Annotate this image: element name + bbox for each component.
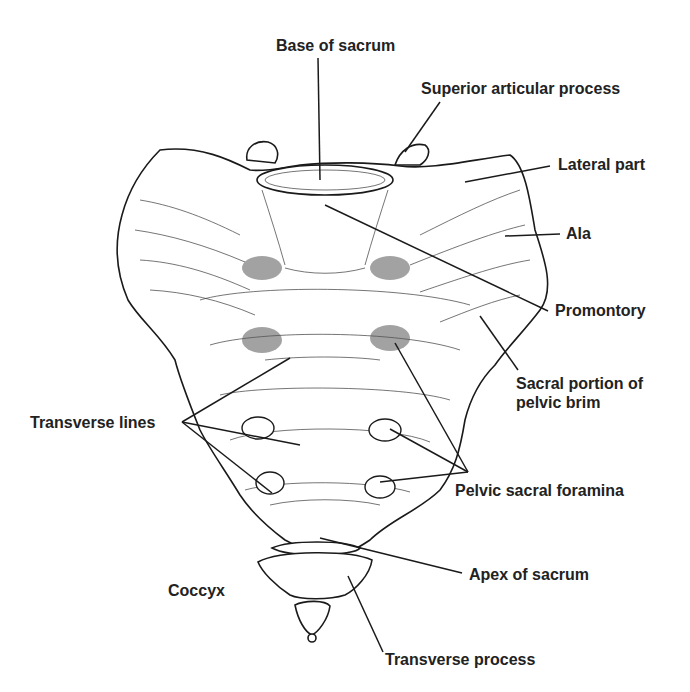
sacrum-illustration — [0, 0, 690, 692]
label-base-of-sacrum: Base of sacrum — [276, 36, 395, 55]
label-sacral-portion-line1: Sacral portion of — [516, 374, 643, 393]
label-transverse-lines: Transverse lines — [30, 413, 155, 432]
label-coccyx: Coccyx — [168, 581, 225, 600]
label-ala: Ala — [566, 224, 591, 243]
right-superior-articular-process — [395, 144, 429, 165]
label-apex-of-sacrum: Apex of sacrum — [469, 565, 589, 584]
label-superior-articular-process: Superior articular process — [421, 79, 620, 98]
base-of-sacrum-surface — [257, 165, 393, 195]
label-promontory: Promontory — [555, 301, 646, 320]
sacrum-diagram: Base of sacrum Superior articular proces… — [0, 0, 690, 692]
label-lateral-part: Lateral part — [558, 155, 645, 174]
left-superior-articular-process — [247, 142, 278, 163]
label-pelvic-sacral-foramina: Pelvic sacral foramina — [455, 481, 624, 500]
label-sacral-portion-line2: pelvic brim — [516, 393, 600, 412]
label-transverse-process: Transverse process — [385, 650, 535, 669]
